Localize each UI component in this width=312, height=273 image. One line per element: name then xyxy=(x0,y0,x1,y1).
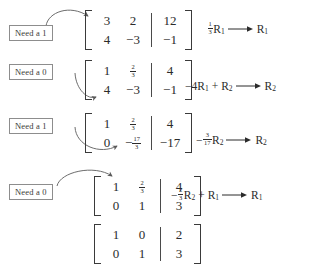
matrix-cell: −3 xyxy=(120,80,146,99)
matrix-cell: −3 xyxy=(120,30,146,49)
callout-label-step-2: Need a 0 xyxy=(15,67,47,77)
matrix-cell: 1 xyxy=(129,196,155,215)
fraction-denominator: 3 xyxy=(132,143,141,151)
target-row-index: 1 xyxy=(264,25,268,39)
cell-value: −17 xyxy=(160,135,180,150)
augmented-block: 2 3 xyxy=(166,225,192,263)
coefficient-block: 2 3 1 xyxy=(129,177,155,215)
cell-value: 1 xyxy=(113,227,120,242)
matrix-step-5-result: 1 0 0 1 2 3 xyxy=(94,224,201,264)
cell-value: 1 xyxy=(113,179,120,194)
bracket-left xyxy=(85,60,92,100)
row-operation-step-2: −4 R 1 + R 2 R 2 xyxy=(185,79,276,93)
matrix-cell: 1 xyxy=(103,177,129,196)
matrix-cell: 4 xyxy=(157,114,183,133)
matrix-cell: 3 xyxy=(166,244,192,263)
coefficient-block: 2 3 −3 xyxy=(120,61,146,99)
matrix-cell: 1 xyxy=(129,244,155,263)
cell-value: 0 xyxy=(113,246,120,261)
cell-value: 0 xyxy=(139,227,146,242)
added-row-symbol: R xyxy=(221,79,229,93)
cell-value: 1 xyxy=(104,116,111,131)
fraction-denominator: 17 xyxy=(203,139,212,147)
coefficient-block: 2 3 − 17 3 xyxy=(120,114,146,152)
fraction-two-thirds: 2 3 xyxy=(139,180,144,194)
minus-sign: − xyxy=(171,188,178,202)
row-operation-step-4: − 2 3 R 2 + R 1 R 1 xyxy=(171,188,263,202)
coefficient-block: 1 4 xyxy=(94,61,120,99)
matrix-step-1: 3 4 2 −3 12 −1 xyxy=(85,10,192,50)
fraction-denominator: 3 xyxy=(130,124,135,132)
matrix-grid: 1 4 2 3 −3 4 xyxy=(92,60,185,100)
matrix-cell: 0 xyxy=(129,225,155,244)
source-row-index: 2 xyxy=(220,136,224,150)
fraction-denominator: 3 xyxy=(130,71,135,79)
minus-sign: − xyxy=(125,135,132,150)
coefficient-block: 3 4 xyxy=(94,11,120,49)
cell-value: −1 xyxy=(163,32,177,47)
target-row-symbol: R xyxy=(265,79,273,93)
cell-value: −1 xyxy=(163,82,177,97)
coefficient-block: 1 0 xyxy=(103,177,129,215)
bracket-right xyxy=(185,10,192,50)
figure-canvas: Need a 1 3 4 2 −3 xyxy=(0,0,312,273)
cell-value: 3 xyxy=(104,13,111,28)
bracket-right xyxy=(194,224,201,264)
matrix-cell: 4 xyxy=(157,61,183,80)
augmented-block: 4 −1 xyxy=(157,61,183,99)
fraction-denominator: 3 xyxy=(178,194,183,202)
source-row-symbol: R xyxy=(212,133,220,147)
cell-value: 3 xyxy=(176,246,183,261)
row-operation-step-1: 1 3 R 1 R 1 xyxy=(207,22,268,36)
row-operation-step-3: − 3 17 R 2 R 2 xyxy=(196,133,267,147)
callout-box-step-3: Need a 1 xyxy=(9,118,53,134)
target-row-symbol: R xyxy=(255,133,263,147)
source-row-index: 1 xyxy=(221,25,225,39)
bracket-left xyxy=(94,176,101,216)
cell-value: −3 xyxy=(126,32,140,47)
scalar-fraction: 2 3 xyxy=(178,187,183,201)
source-row-symbol: R xyxy=(184,188,192,202)
cell-value: 0 xyxy=(104,135,111,150)
scalar-coefficient: −4 xyxy=(185,79,197,93)
source-row-index: 2 xyxy=(191,191,195,205)
cell-value: 4 xyxy=(104,32,111,47)
matrix-cell: 0 xyxy=(103,244,129,263)
matrix-step-3: 1 0 2 3 − 17 3 xyxy=(85,113,192,153)
augment-divider xyxy=(160,227,161,261)
matrix-cell: 4 xyxy=(94,80,120,99)
matrix-cell: 2 3 xyxy=(129,177,155,196)
matrix-cell: 0 xyxy=(103,196,129,215)
added-row-index: 2 xyxy=(229,82,233,96)
source-row-index: 1 xyxy=(205,82,209,96)
plus-sign: + xyxy=(198,188,205,202)
coefficient-block: 2 −3 xyxy=(120,11,146,49)
matrix-grid: 1 0 0 1 2 3 xyxy=(101,224,194,264)
fraction-two-thirds: 2 3 xyxy=(130,64,135,78)
cell-value: 1 xyxy=(139,246,146,261)
coefficient-block: 0 1 xyxy=(129,225,155,263)
augmented-block: 4 −17 xyxy=(157,114,183,152)
added-row-symbol: R xyxy=(208,188,216,202)
matrix-grid: 3 4 2 −3 12 −1 xyxy=(92,10,185,50)
matrix-cell: 4 xyxy=(94,30,120,49)
cell-value: 0 xyxy=(113,198,120,213)
augment-divider xyxy=(160,179,161,213)
fraction-seventeen-thirds: 17 3 xyxy=(132,136,141,150)
maps-to-arrow-icon xyxy=(228,25,254,33)
callout-box-step-4: Need a 0 xyxy=(9,184,53,200)
cell-value: 4 xyxy=(104,82,111,97)
maps-to-arrow-icon xyxy=(236,82,262,90)
matrix-cell: 2 3 xyxy=(120,61,146,80)
matrix-cell: 1 xyxy=(103,225,129,244)
augment-divider xyxy=(151,13,152,47)
callout-label-step-3: Need a 1 xyxy=(15,121,47,131)
bracket-right xyxy=(185,113,192,153)
callout-label-step-4: Need a 0 xyxy=(15,187,47,197)
target-row-symbol: R xyxy=(251,188,259,202)
callout-box-step-1: Need a 1 xyxy=(9,25,53,41)
source-row-symbol: R xyxy=(213,22,221,36)
cell-value: 1 xyxy=(104,63,111,78)
fraction-two-thirds: 2 3 xyxy=(130,117,135,131)
target-row-index: 2 xyxy=(272,82,276,96)
